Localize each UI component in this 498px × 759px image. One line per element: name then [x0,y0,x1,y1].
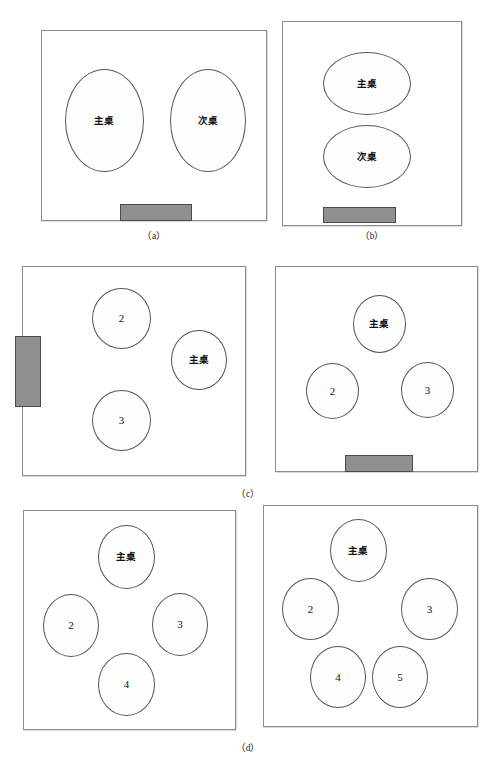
caption-a: （a） [114,228,194,242]
table-second-a: 次桌 [170,69,246,172]
table-label-5-d-right: 5 [397,672,403,683]
table-label-3-c-right: 3 [425,385,431,396]
figure-sheet: 主桌 次桌 （a） 主桌 次桌 （b） 2 主桌 3 主桌 [0,0,498,759]
table-label-2-d-left: 2 [68,620,74,631]
table-2-d-right: 2 [282,578,339,640]
caption-c: （c） [208,486,288,500]
table-head-d-right: 主桌 [330,519,387,582]
table-head-d-left: 主桌 [98,525,155,589]
table-label-4-d-left: 4 [124,679,130,690]
table-head-c-left: 主桌 [171,330,227,390]
table-label-2-c-right: 2 [330,386,336,397]
table-3-d-right: 3 [401,578,458,640]
panel-d-right-room: 主桌 2 3 4 5 [263,505,478,727]
caption-b: （b） [332,228,412,242]
table-label-3-d-right: 3 [427,604,433,615]
table-label-head-c-right: 主桌 [369,319,389,329]
panel-c-left-room: 2 主桌 3 [22,266,246,476]
table-label-second-b: 次桌 [357,152,377,162]
table-label-second-a: 次桌 [198,116,218,126]
panel-d-left-room: 主桌 2 3 4 [23,510,236,730]
table-head-b: 主桌 [323,52,411,115]
table-label-2-c-left: 2 [119,313,125,324]
table-second-b: 次桌 [323,125,411,188]
table-2-c-left: 2 [92,288,151,349]
table-label-4-d-right: 4 [335,672,341,683]
panel-c-right-room: 主桌 2 3 [275,266,478,472]
stage-c-left [15,336,41,407]
panel-a-room: 主桌 次桌 [41,30,267,221]
table-label-3-d-left: 3 [177,619,183,630]
caption-d: （d） [208,740,288,754]
table-label-head-a: 主桌 [94,116,114,126]
table-head-a: 主桌 [65,69,144,172]
table-label-head-d-right: 主桌 [348,546,368,556]
table-4-d-left: 4 [98,653,155,716]
stage-c-right [345,455,413,472]
table-head-c-right: 主桌 [353,295,406,353]
table-2-d-left: 2 [43,594,99,657]
table-label-3-c-left: 3 [119,415,125,426]
table-label-head-b: 主桌 [357,79,377,89]
panel-b-room: 主桌 次桌 [282,21,462,226]
table-label-2-d-right: 2 [308,604,314,615]
table-5-d-right: 5 [372,646,428,708]
table-3-c-right: 3 [401,362,454,418]
table-3-c-left: 3 [92,390,151,451]
table-3-d-left: 3 [152,593,208,656]
table-label-head-d-left: 主桌 [116,552,136,562]
table-label-head-c-left: 主桌 [189,355,209,365]
table-2-c-right: 2 [306,363,359,419]
stage-a [120,204,192,221]
stage-b [323,207,396,223]
table-4-d-right: 4 [310,646,366,708]
